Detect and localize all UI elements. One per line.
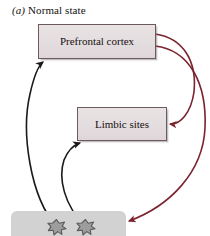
edge-neuron-to-prefrontal	[27, 62, 56, 226]
node-prefrontal-cortex: Prefrontal cortex	[38, 24, 156, 59]
neuron-field-region	[11, 211, 126, 236]
neuron-cell-right-icon	[76, 218, 96, 236]
node-limbic-sites: Limbic sites	[77, 107, 167, 141]
neuron-cell-left-icon	[47, 218, 67, 236]
node-limbic-sites-label: Limbic sites	[95, 119, 149, 130]
figure-panel: (a) Normal state Prefrontal cortex Limb	[0, 0, 210, 236]
node-prefrontal-cortex-label: Prefrontal cortex	[60, 36, 134, 47]
